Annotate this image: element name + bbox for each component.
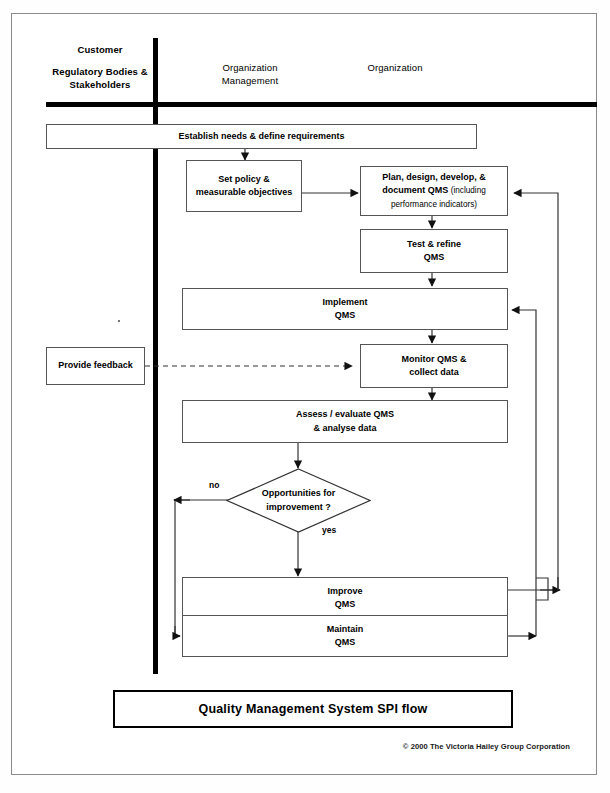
decision-diamond-shape <box>226 468 371 533</box>
node-implement-line1: Implement <box>322 297 367 307</box>
node-improve-qms[interactable]: Improve QMS <box>182 577 508 619</box>
node-establish-needs-label: Establish needs & define requirements <box>178 130 344 143</box>
node-plan-line2: document QMS <box>382 185 448 195</box>
lane-header-orgmgmt-line2: Management <box>222 75 278 86</box>
lane-header-customer-sub-line2: Stakeholders <box>70 79 131 90</box>
node-provide-feedback-label: Provide feedback <box>58 359 133 372</box>
node-assess-evaluate[interactable]: Assess / evaluate QMS & analyse data <box>182 400 508 443</box>
node-monitor-line1: Monitor QMS & <box>402 354 467 364</box>
node-test-refine[interactable]: Test & refine QMS <box>360 229 508 273</box>
lane-header-orgmgmt-line1: Organization <box>222 62 277 73</box>
branch-label-yes: yes <box>322 525 336 535</box>
node-plan-line3-small: performance indicators) <box>391 200 477 209</box>
branch-label-no: no <box>209 480 219 490</box>
node-establish-needs[interactable]: Establish needs & define requirements <box>46 124 477 149</box>
node-assess-line2: & analyse data <box>313 423 376 433</box>
node-assess-line1: Assess / evaluate QMS <box>296 409 394 419</box>
lane-header-customer-sub-line1: Regulatory Bodies & <box>52 66 147 77</box>
node-implement-line2: QMS <box>335 310 356 320</box>
lane-header-customer-subtitle: Regulatory Bodies &Stakeholders <box>40 66 160 92</box>
diagram-title-plate: Quality Management System SPI flow <box>113 690 513 728</box>
copyright-notice: © 2000 The Victoria Hailey Group Corpora… <box>330 742 570 751</box>
node-improve-line2: QMS <box>335 599 356 609</box>
node-improve-line1: Improve <box>327 586 362 596</box>
node-set-policy-line2: measurable objectives <box>196 187 293 197</box>
node-set-policy-line1: Set policy & <box>218 174 270 184</box>
node-maintain-line2: QMS <box>335 637 356 647</box>
swimlane-horizontal-divider <box>46 102 597 107</box>
node-decision-opportunities[interactable]: Opportunities for improvement ? <box>226 468 371 533</box>
node-provide-feedback[interactable]: Provide feedback <box>46 347 145 385</box>
node-plan-line1: Plan, design, develop, & <box>382 172 486 182</box>
node-plan-design-develop[interactable]: Plan, design, develop, & document QMS (i… <box>360 166 508 216</box>
node-test-line1: Test & refine <box>407 239 461 249</box>
lane-header-organization: Organization <box>330 62 460 75</box>
node-test-line2: QMS <box>424 252 445 262</box>
node-monitor-qms[interactable]: Monitor QMS & collect data <box>360 344 508 388</box>
diagram-title: Quality Management System SPI flow <box>198 702 427 716</box>
node-monitor-line2: collect data <box>409 367 459 377</box>
node-maintain-qms[interactable]: Maintain QMS <box>182 615 508 657</box>
diagram-page: Customer Regulatory Bodies &Stakeholders… <box>0 0 610 793</box>
node-implement-qms[interactable]: Implement QMS <box>182 288 508 330</box>
node-set-policy[interactable]: Set policy & measurable objectives <box>186 160 302 212</box>
node-maintain-line1: Maintain <box>327 624 364 634</box>
lane-header-organization-management: OrganizationManagement <box>195 62 305 88</box>
lane-header-customer-title: Customer <box>47 44 153 57</box>
node-plan-line2-small: (including <box>451 186 486 195</box>
scan-speck <box>118 320 120 322</box>
